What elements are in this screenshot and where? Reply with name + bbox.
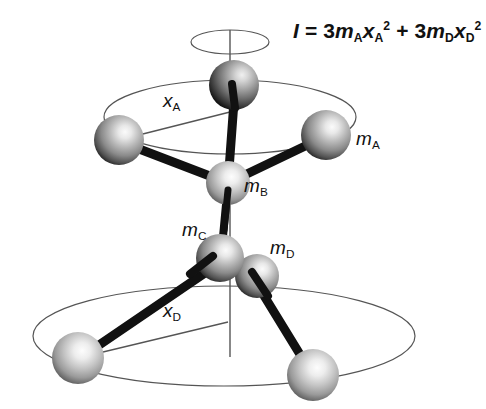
- sphere-d-left: [52, 332, 104, 384]
- sphere-d-lower: [287, 349, 339, 401]
- sphere-c-center: [196, 234, 244, 282]
- bond-stub-b-down: [224, 190, 228, 230]
- sphere-a-left: [94, 115, 144, 165]
- bond-c-to-d-left: [80, 262, 221, 358]
- bond-stub-a-top: [232, 84, 235, 108]
- physics-diagram-figure: I = 3mAxA2 + 3mDxD2 mA mB mC mD xA xD: [0, 0, 486, 409]
- sphere-group: [52, 60, 351, 401]
- diagram-canvas: [0, 0, 486, 409]
- sphere-a-right: [301, 110, 351, 160]
